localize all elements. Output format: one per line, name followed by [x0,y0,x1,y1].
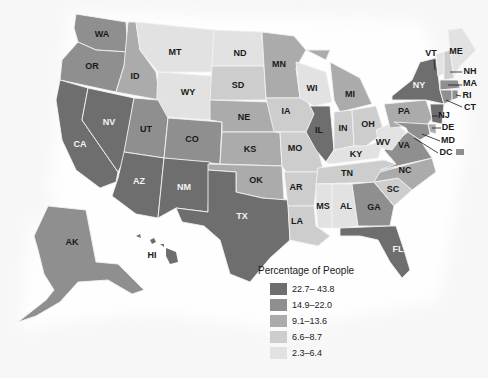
label-la: LA [291,216,303,226]
label-me: ME [449,46,463,56]
label-nc: NC [399,165,412,175]
legend-title: Percentage of People [258,265,388,276]
label-mt: MT [169,47,182,57]
legend-label: 14.9–22.0 [292,300,332,310]
label-vt: VT [425,48,437,58]
label-ct: CT [464,102,476,112]
legend-label: 9.1–13.6 [292,316,327,326]
legend-swatch [270,331,287,343]
label-wv: WV [376,137,391,147]
label-hi: HI [148,250,157,260]
state-dc-swatch [456,149,464,155]
label-tx: TX [236,211,248,221]
label-wa: WA [95,29,110,39]
label-ia: IA [282,106,292,116]
label-ks: KS [244,144,257,154]
label-pa: PA [398,106,410,116]
legend-item: 6.6–8.7 [270,329,388,345]
legend-item: 2.3–6.4 [270,345,388,361]
label-sd: SD [232,80,245,90]
label-ar: AR [290,182,303,192]
legend-swatch [270,299,287,311]
legend-item: 9.1–13.6 [270,313,388,329]
label-nj: NJ [438,110,450,120]
label-fl: FL [393,244,404,254]
label-or: OR [85,61,99,71]
label-ak: AK [66,237,79,247]
legend-swatch [270,315,287,327]
label-ca: CA [74,139,87,149]
legend-label: 6.6–8.7 [292,332,322,342]
label-nh: NH [464,66,477,76]
label-ga: GA [367,202,381,212]
label-ri: RI [463,90,472,100]
label-nv: NV [103,117,116,127]
label-in: IN [339,123,348,133]
label-ut: UT [140,124,152,134]
label-ky: KY [350,149,363,159]
label-nd: ND [234,48,247,58]
label-va: VA [398,140,410,150]
label-ms: MS [316,201,330,211]
legend-label: 22.7– 43.8 [292,284,335,294]
label-mi: MI [345,89,355,99]
legend-swatch [270,283,287,295]
legend-item: 14.9–22.0 [270,297,388,313]
label-tn: TN [341,168,353,178]
label-al: AL [340,201,352,211]
label-il: IL [315,125,324,135]
label-mo: MO [288,143,303,153]
legend-label: 2.3–6.4 [292,348,322,358]
label-mn: MN [272,59,286,69]
label-ok: OK [249,175,263,185]
label-sc: SC [387,184,400,194]
label-dc: DC [440,147,453,157]
map-legend: Percentage of People 22.7– 43.8 14.9–22.… [258,265,388,361]
legend-item: 22.7– 43.8 [270,281,388,297]
label-co: CO [185,134,199,144]
label-ne: NE [238,112,251,122]
label-id: ID [131,71,141,81]
label-md: MD [441,135,455,145]
label-ma: MA [463,78,477,88]
us-choropleth-map: WA OR CA NV ID MT WY UT CO AZ NM ND SD N… [0,0,488,378]
label-de: DE [442,122,455,132]
label-wy: WY [181,87,196,97]
label-nm: NM [177,182,191,192]
label-oh: OH [361,119,375,129]
label-wi: WI [307,83,318,93]
legend-swatch [270,347,287,359]
label-ny: NY [413,80,426,90]
label-az: AZ [133,176,145,186]
